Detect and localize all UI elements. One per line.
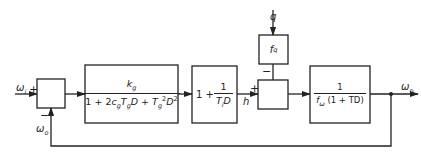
plant-transfer-function: 1 fω (1 + TD) <box>314 82 365 108</box>
h-label: h <box>243 97 249 107</box>
input-label: ωi <box>16 83 26 96</box>
summer-2-box <box>258 80 288 109</box>
junction-dot <box>389 92 393 96</box>
integrator-block: 1 + 1 TiD <box>192 66 237 123</box>
summer1-plus: + <box>29 84 38 95</box>
output-label: ωo <box>401 82 413 95</box>
integrator-transfer-function: 1 + 1 TiD <box>196 81 233 109</box>
disturbance-gain-block: fq <box>259 35 288 64</box>
governor-block: kg 1 + 2cgTgD + Tg2D2 <box>85 65 178 123</box>
summer1-minus: − <box>40 110 49 121</box>
plant-block: 1 fω (1 + TD) <box>310 66 370 123</box>
summer-1-box <box>37 79 65 108</box>
summer2-minus: − <box>262 66 271 77</box>
summer2-plus: + <box>250 83 259 94</box>
governor-transfer-function: kg 1 + 2cgTgD + Tg2D2 <box>83 78 179 110</box>
feedback-label: ωo <box>36 124 48 137</box>
q-label: q <box>270 12 276 22</box>
